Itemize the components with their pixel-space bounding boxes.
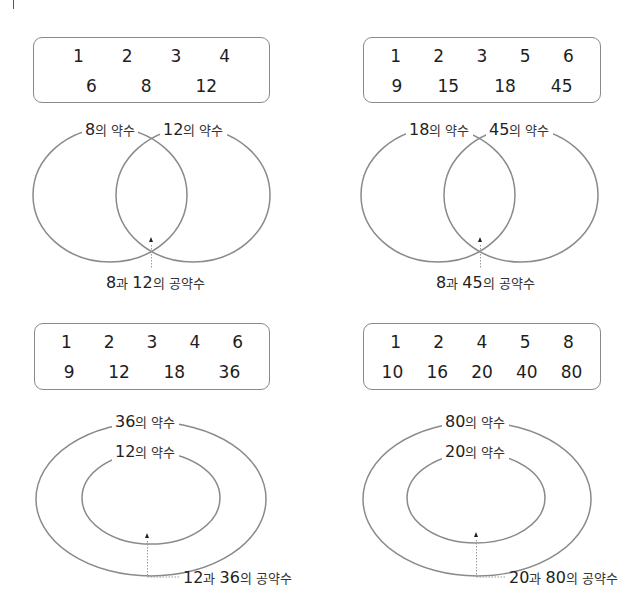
panel-bottom-left: 1 2 3 4 6 9 12 18 36 36의 약수 12의 약수 12과 3… [0,295,316,590]
inner-set-label: 20의 약수 [442,442,509,461]
inner-set-label: 12의 약수 [112,442,179,461]
panel-bottom-right: 1 2 4 5 8 10 16 20 40 80 80의 약수 20의 약수 2… [316,295,632,590]
venn-diagram [316,0,632,295]
set-label-a: 8의 약수 [82,120,138,139]
set-label-b: 12의 약수 [160,120,227,139]
common-divisor-label: 20과 80의 공약수 [509,568,618,587]
outer-set-label: 80의 약수 [442,412,509,431]
panel-top-right: 1 2 3 5 6 9 15 18 45 18의 약수 45의 약수 8과 45… [316,0,632,295]
panel-top-left: 1 2 3 4 6 8 12 8의 약수 12의 약수 8과 12의 공약수 [0,0,316,295]
common-divisor-label: 8과 45의 공약수 [436,273,535,292]
common-divisor-label: 12과 36의 공약수 [183,568,292,587]
set-label-a: 18의 약수 [406,120,473,139]
outer-set-label: 36의 약수 [112,412,179,431]
set-label-b: 45의 약수 [486,120,553,139]
venn-diagram [0,0,316,295]
common-divisor-label: 8과 12의 공약수 [106,273,205,292]
